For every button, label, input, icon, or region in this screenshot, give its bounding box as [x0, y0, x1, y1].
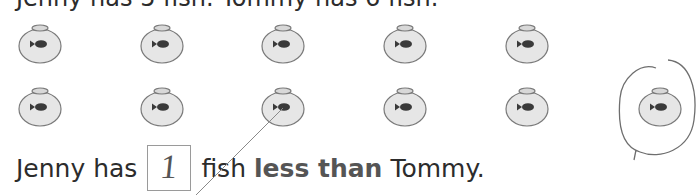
sentence-prefix: Jenny has	[16, 154, 137, 183]
fishbowl-icon	[381, 83, 429, 127]
answer-sentence: Jenny has 1 fish less than Tommy.	[16, 145, 485, 191]
fishbowl-icon	[259, 20, 307, 64]
fishbowl-icon	[138, 20, 186, 64]
fishbowl-icon	[259, 83, 307, 127]
fishbowl-icon	[138, 83, 186, 127]
sentence-suffix: Tommy.	[390, 154, 484, 183]
problem-statement: Jenny has 5 fish. Tommy has 6 fish.	[16, 0, 438, 12]
sentence-middle: fish	[201, 154, 246, 183]
fishbowl-icon	[16, 83, 64, 127]
fishbowl-icon-extra	[636, 83, 684, 127]
fishbowl-icon	[16, 20, 64, 64]
fishbowl-icon	[503, 20, 551, 64]
fishbowl-icon	[503, 83, 551, 127]
sentence-bold-phrase: less than	[254, 154, 382, 183]
answer-box[interactable]: 1	[147, 145, 191, 191]
handwritten-answer: 1	[146, 148, 192, 186]
fishbowl-icon	[381, 20, 429, 64]
